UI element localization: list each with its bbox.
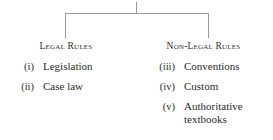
item-numeral: (iii) — [136, 60, 175, 73]
branch-legal-rules: Legal Rules (i) Legislation (ii) Case la… — [0, 40, 136, 93]
bracket-tree-diagram: Legal Rules (i) Legislation (ii) Case la… — [0, 0, 273, 140]
item-label: Custom — [175, 80, 273, 93]
item-numeral: (i) — [0, 60, 34, 73]
crossbar-line — [65, 13, 209, 14]
list-item: (iv) Custom — [136, 80, 273, 93]
item-list-legal-rules: (i) Legislation (ii) Case law — [0, 60, 136, 93]
branch-drop-line-right — [208, 13, 209, 38]
branch-drop-line-left — [65, 13, 66, 38]
item-label: Case law — [34, 80, 136, 93]
branch-heading-legal-rules: Legal Rules — [0, 40, 136, 53]
item-label-line: textbooks — [184, 113, 273, 126]
branch-heading-non-legal-rules: Non-Legal Rules — [136, 40, 273, 53]
item-numeral: (v) — [136, 100, 175, 113]
list-item: (ii) Case law — [0, 80, 136, 93]
item-label-line: Authoritative — [184, 100, 273, 113]
item-list-non-legal-rules: (iii) Conventions (iv) Custom (v) Author… — [136, 60, 273, 126]
item-label: Conventions — [175, 60, 273, 73]
item-numeral: (ii) — [0, 80, 34, 93]
connector-bracket — [0, 0, 273, 45]
list-item: (iii) Conventions — [136, 60, 273, 73]
list-item: (v) Authoritativetextbooks — [136, 100, 273, 126]
list-item: (i) Legislation — [0, 60, 136, 73]
item-numeral: (iv) — [136, 80, 175, 93]
item-label: Authoritativetextbooks — [175, 100, 273, 126]
item-label: Legislation — [34, 60, 136, 73]
branch-non-legal-rules: Non-Legal Rules (iii) Conventions (iv) C… — [136, 40, 273, 126]
